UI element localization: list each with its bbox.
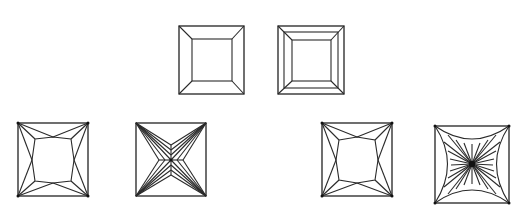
diagram-square-step-cut-double (278, 26, 344, 94)
diagram-princess-cut-top-b (321, 122, 394, 198)
diagram-princess-cut-pavilion-x (136, 123, 206, 196)
diagram-square-step-cut-single (179, 26, 244, 94)
diagram-radiant-star-pavilion (434, 125, 511, 205)
diagram-princess-cut-top-a (17, 122, 90, 198)
facet-diagrams-canvas (0, 0, 527, 221)
